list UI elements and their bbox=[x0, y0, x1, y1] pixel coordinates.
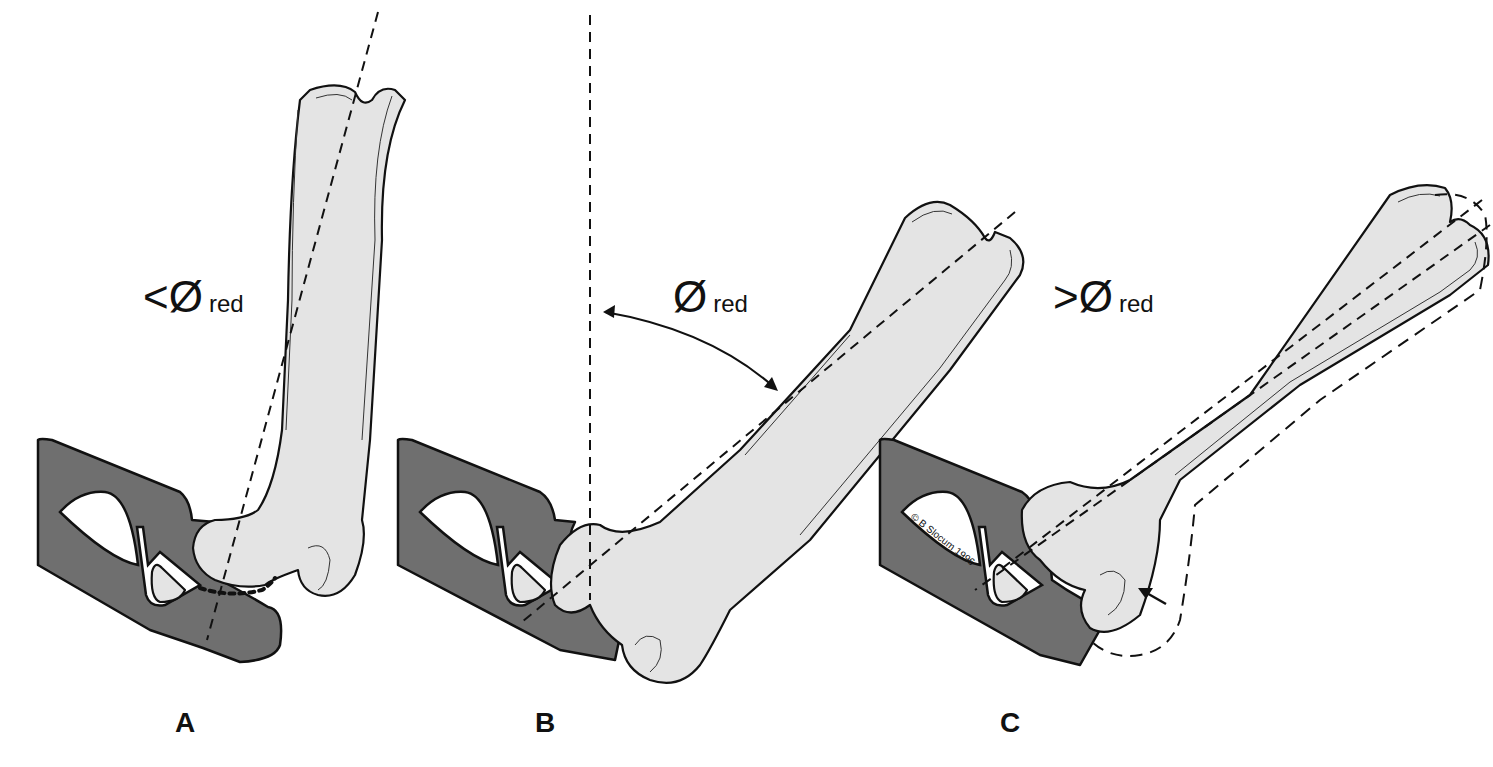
angle-arc-b bbox=[605, 312, 775, 388]
panel-label-c: C bbox=[1000, 707, 1020, 738]
panel-b: Øred B bbox=[398, 15, 1023, 738]
femur-a bbox=[193, 85, 405, 595]
panel-label-b: B bbox=[535, 707, 555, 738]
angle-label-c: >Øred bbox=[1053, 272, 1154, 321]
femur-c bbox=[1022, 185, 1489, 632]
angle-label-a: <Øred bbox=[143, 272, 244, 321]
femoral-axis-c2 bbox=[1000, 200, 1482, 570]
arrowhead-bottom-b bbox=[764, 377, 778, 391]
angle-label-b: Øred bbox=[673, 272, 748, 321]
arrowhead-top-b bbox=[603, 305, 615, 318]
panel-a: <Øred A bbox=[38, 12, 405, 738]
femur-b bbox=[551, 202, 1023, 683]
hip-reduction-diagram: <Øred A Øred B © B Slocum 1996 bbox=[0, 0, 1493, 767]
panel-label-a: A bbox=[175, 707, 195, 738]
